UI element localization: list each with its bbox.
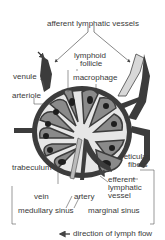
left-afferent-vessel — [40, 56, 52, 92]
label-efferent-3: vessel — [108, 192, 131, 200]
label-artery: artery — [74, 193, 94, 201]
label-afferent: afferent lymphatic vessels — [47, 20, 139, 28]
lymph-node-illustration — [0, 0, 165, 240]
label-venule: venule — [13, 73, 37, 81]
label-follicle-2: follicle — [80, 60, 102, 68]
label-marginal: marginal sinus — [88, 207, 140, 215]
label-macrophage: macrophage — [73, 74, 117, 82]
label-legend: direction of lymph flow — [73, 230, 152, 238]
label-reticular-2: fibers — [128, 161, 148, 169]
label-trabeculum: trabeculum — [12, 164, 52, 172]
label-vein: vein — [34, 193, 49, 201]
label-arteriole: arteriole — [12, 92, 41, 100]
label-medullary: medullary sinus — [18, 207, 74, 215]
